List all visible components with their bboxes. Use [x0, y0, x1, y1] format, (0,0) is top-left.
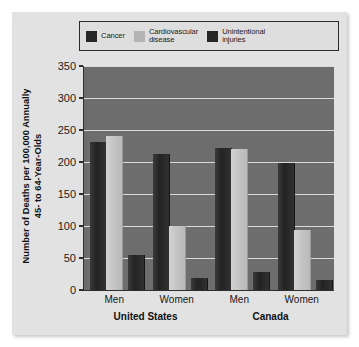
bar-cancer-canada-women [278, 163, 295, 290]
bar-cancer-united-states-women [153, 154, 170, 290]
y-tick-label-150: 150 [58, 188, 76, 200]
chart-legend: Cancer Cardiovascular disease Unintentio… [79, 21, 339, 51]
gridline-300 [84, 98, 334, 99]
legend-label-cardiovascular-disease: Cardiovascular disease [149, 28, 198, 45]
legend-swatch-cancer [86, 31, 97, 42]
chart-figure: Cancer Cardiovascular disease Unintentio… [0, 0, 359, 347]
legend-label-unintentional-injuries: Unintentional injuries [222, 28, 265, 45]
gridline-250 [84, 130, 334, 131]
x-tick-label-2: Men [230, 294, 249, 305]
y-tick-0 [79, 289, 83, 291]
bar-unintentional-injuries-canada-men [253, 272, 270, 290]
legend-item-cancer: Cancer [86, 31, 125, 42]
legend-swatch-cardiovascular-disease [134, 31, 145, 42]
legend-item-unintentional-injuries: Unintentional injuries [207, 28, 265, 45]
bar-cardiovascular-disease-united-states-men [106, 136, 123, 290]
y-tick-250 [79, 129, 83, 131]
plot-container: 050100150200250300350 [83, 66, 333, 290]
y-tick-label-300: 300 [58, 92, 76, 104]
bar-unintentional-injuries-united-states-men [128, 255, 145, 290]
y-tick-50 [79, 257, 83, 259]
y-axis-title-container: Number of Deaths per 100,000 Annually 45… [16, 60, 50, 292]
y-tick-100 [79, 225, 83, 227]
y-tick-label-50: 50 [64, 252, 76, 264]
y-tick-label-200: 200 [58, 156, 76, 168]
y-tick-label-100: 100 [58, 220, 76, 232]
y-tick-label-350: 350 [58, 60, 76, 72]
y-tick-label-0: 0 [70, 284, 76, 296]
y-tick-300 [79, 97, 83, 99]
bar-cancer-united-states-men [90, 142, 107, 290]
y-tick-label-250: 250 [58, 124, 76, 136]
x-tick-label-1: Women [160, 294, 194, 305]
bar-cardiovascular-disease-canada-men [231, 149, 248, 290]
plot-area: 050100150200250300350 [83, 66, 334, 291]
x-group-label-canada: Canada [252, 311, 288, 322]
y-axis-title: Number of Deaths per 100,000 Annually 45… [21, 62, 45, 290]
legend-label-cancer: Cancer [101, 32, 125, 41]
bar-unintentional-injuries-united-states-women [191, 278, 208, 290]
bar-unintentional-injuries-canada-women [316, 280, 333, 290]
y-tick-200 [79, 161, 83, 163]
x-group-label-united-states: United States [114, 311, 178, 322]
bar-cardiovascular-disease-united-states-women [169, 226, 186, 290]
legend-swatch-unintentional-injuries [207, 31, 218, 42]
bar-cancer-canada-men [215, 148, 232, 290]
legend-item-cardiovascular-disease: Cardiovascular disease [134, 28, 198, 45]
x-tick-label-0: Men [105, 294, 124, 305]
y-tick-150 [79, 193, 83, 195]
bar-cardiovascular-disease-canada-women [294, 230, 311, 290]
x-tick-label-3: Women [285, 294, 319, 305]
gridline-350 [84, 66, 334, 67]
y-tick-350 [79, 65, 83, 67]
